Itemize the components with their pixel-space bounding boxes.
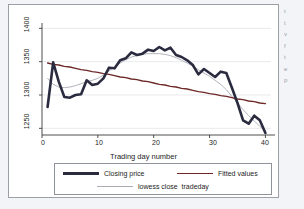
x-axis-title: Trading day number <box>9 152 278 161</box>
legend-item-closing-price[interactable]: Closing price <box>63 167 144 180</box>
legend-label-closing-price: Closing price <box>104 170 144 177</box>
legend-label-fitted-values: Fitted values <box>218 170 258 177</box>
margin-text-line: v <box>284 29 304 41</box>
chart-legend: Closing price Fitted values lowess close… <box>54 163 272 195</box>
x-axis-tick-label: 10 <box>91 139 107 146</box>
y-axis-tick-label: 1250 <box>9 118 35 132</box>
x-axis-tick-label: 20 <box>148 139 164 146</box>
margin-text-line: f <box>284 41 304 53</box>
legend-label-lowess: lowess close tradeday <box>138 183 209 190</box>
margin-text-line: p <box>284 75 304 86</box>
legend-item-lowess[interactable]: lowess close tradeday <box>97 180 209 193</box>
legend-swatch-lowess <box>97 186 133 187</box>
legend-swatch-fitted-values <box>177 173 213 174</box>
margin-body-text: t t v f t e p <box>284 6 304 86</box>
x-axis-tick-label: 0 <box>35 139 51 146</box>
x-axis-tick-label: 30 <box>205 139 221 146</box>
legend-swatch-closing-price <box>63 172 99 175</box>
y-axis-tick-label: 1300 <box>9 86 35 100</box>
figure-container: 1400 1350 1300 1250 0 10 20 30 40 Tradin… <box>8 4 279 198</box>
margin-text-line: t <box>284 6 304 18</box>
y-axis-tick-label: 1350 <box>9 53 35 67</box>
margin-text-line: t <box>284 52 304 64</box>
y-axis-tick-label: 1400 <box>9 21 35 35</box>
line-chart: 1400 1350 1300 1250 0 10 20 30 40 Tradin… <box>9 5 278 197</box>
x-axis-tick-label: 40 <box>257 139 273 146</box>
margin-text-line: e <box>284 64 304 76</box>
legend-item-fitted-values[interactable]: Fitted values <box>177 167 258 180</box>
screenshot-page: t t v f t e p 1400 1350 1300 1250 0 10 2… <box>0 0 304 209</box>
margin-text-line: t <box>284 18 304 30</box>
